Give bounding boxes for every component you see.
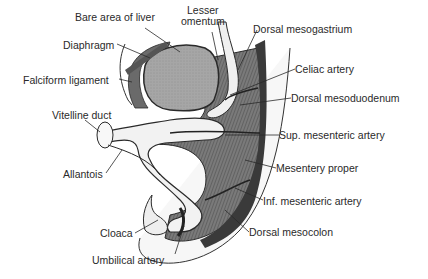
label-celiac-artery: Celiac artery: [295, 63, 354, 75]
label-allantois: Allantois: [63, 168, 103, 180]
label-falciform-ligament: Falciform ligament: [23, 74, 109, 86]
label-dorsal-mesogastrium: Dorsal mesogastrium: [253, 23, 352, 35]
label-dorsal-mesoduodenum: Dorsal mesoduodenum: [291, 92, 400, 104]
label-umbilical-artery: Umbilical artery: [92, 254, 164, 266]
label-bare-area-of-liver: Bare area of liver: [75, 11, 155, 23]
label-diaphragm: Diaphragm: [63, 39, 114, 51]
label-dorsal-mesocolon: Dorsal mesocolon: [249, 226, 333, 238]
label-inf-mesenteric-artery: Inf. mesenteric artery: [263, 195, 362, 207]
label-cloaca: Cloaca: [100, 227, 133, 239]
label-lesser-omentum-line2: omentum: [181, 15, 225, 27]
vitelline-duct-stump: [97, 122, 113, 148]
label-vitelline-duct: Vitelline duct: [52, 109, 111, 121]
label-mesentery-proper: Mesentery proper: [276, 162, 358, 174]
label-sup-mesenteric-artery: Sup. mesenteric artery: [279, 129, 385, 141]
